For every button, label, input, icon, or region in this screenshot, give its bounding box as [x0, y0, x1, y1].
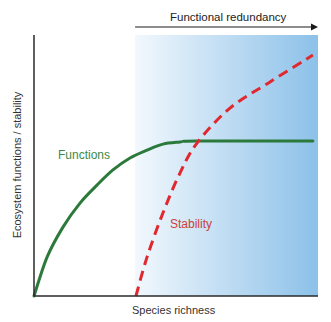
functional-redundancy-arrow: [135, 24, 318, 31]
y-axis-label: Ecosystem functions / stability: [11, 91, 23, 238]
functional-redundancy-region: [135, 35, 318, 296]
x-axis-label: Species richness: [132, 304, 216, 316]
chart-svg: Functional redundancy Functions Stabilit…: [0, 0, 331, 322]
arrow-right-icon: [311, 24, 318, 31]
functions-label: Functions: [58, 148, 110, 162]
figure: Functional redundancy Functions Stabilit…: [0, 0, 331, 322]
stability-label: Stability: [170, 217, 212, 231]
functional-redundancy-label: Functional redundancy: [170, 11, 287, 23]
